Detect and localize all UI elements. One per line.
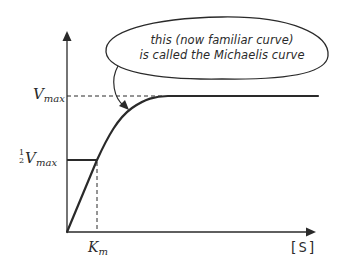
x-axis-label: [S] <box>289 240 317 254</box>
half-vmax-label: 12Vmax <box>19 150 57 167</box>
callout-pointer <box>114 66 129 110</box>
pointer-arrowhead-icon <box>119 100 129 110</box>
callout-line-2: is called the Michaelis curve <box>118 48 326 63</box>
x-axis <box>67 228 316 237</box>
y-axis <box>63 31 72 232</box>
half-fraction: 12 <box>19 149 24 165</box>
vmax-label: Vmax <box>33 86 65 102</box>
callout-text: this (now familiar curve) is called the … <box>118 33 326 63</box>
michaelis-curve <box>67 96 318 232</box>
callout-line-1: this (now familiar curve) <box>118 33 326 48</box>
x-axis-arrow-icon <box>306 228 316 237</box>
y-axis-arrow-icon <box>63 31 72 41</box>
km-label: Km <box>88 239 108 255</box>
